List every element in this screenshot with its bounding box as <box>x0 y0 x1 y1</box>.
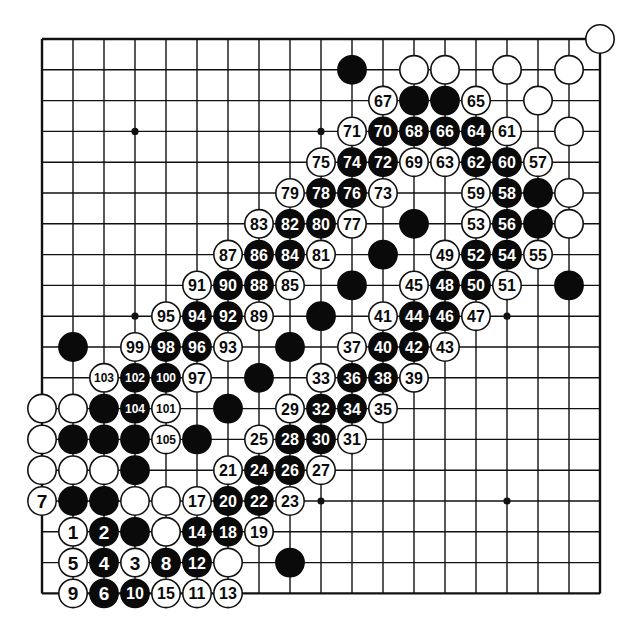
move-number: 10 <box>126 585 144 602</box>
white-stone <box>555 56 583 84</box>
move-number: 72 <box>374 154 392 171</box>
move-number: 80 <box>312 216 330 233</box>
white-stone-13: 13 <box>214 579 242 607</box>
black-stone-84: 84 <box>276 240 304 268</box>
white-stone-77: 77 <box>338 210 366 238</box>
move-number: 26 <box>281 462 299 479</box>
move-number: 32 <box>312 401 330 418</box>
black-stone-icon <box>400 86 428 114</box>
move-number: 49 <box>436 247 454 264</box>
white-stone-1: 1 <box>59 518 87 546</box>
white-stone-icon <box>59 394 87 422</box>
white-stone-9: 9 <box>59 579 87 607</box>
move-number: 35 <box>374 401 392 418</box>
star-point-icon <box>317 497 324 504</box>
black-stone-86: 86 <box>245 240 273 268</box>
white-stone <box>152 518 180 546</box>
move-number: 89 <box>250 308 268 325</box>
white-stone-icon <box>555 56 583 84</box>
move-number: 20 <box>219 493 237 510</box>
white-stone-75: 75 <box>307 148 335 176</box>
black-stone-icon <box>59 487 87 515</box>
black-stone-icon <box>369 240 397 268</box>
black-stone-102: 102 <box>121 364 149 392</box>
white-stone-105: 105 <box>152 425 180 453</box>
black-stone-36: 36 <box>338 364 366 392</box>
black-stone-82: 82 <box>276 210 304 238</box>
white-stone-31: 31 <box>338 425 366 453</box>
black-stone-34: 34 <box>338 394 366 422</box>
white-stone-37: 37 <box>338 333 366 361</box>
move-number: 100 <box>156 371 176 385</box>
black-stone-icon <box>276 333 304 361</box>
white-stone-29: 29 <box>276 394 304 422</box>
white-stone-49: 49 <box>431 240 459 268</box>
move-number: 29 <box>281 401 299 418</box>
star-point-icon <box>131 128 138 135</box>
black-stone-icon <box>307 302 335 330</box>
black-stone <box>307 302 335 330</box>
white-stone-icon <box>121 487 149 515</box>
black-stone <box>90 487 118 515</box>
black-stone <box>90 394 118 422</box>
black-stone-60: 60 <box>493 148 521 176</box>
move-number: 77 <box>343 216 361 233</box>
black-stone-icon <box>245 364 273 392</box>
white-stone-39: 39 <box>400 364 428 392</box>
black-stone <box>338 56 366 84</box>
black-stone-42: 42 <box>400 333 428 361</box>
black-stone-92: 92 <box>214 302 242 330</box>
black-stone-30: 30 <box>307 425 335 453</box>
black-stone-icon <box>214 394 242 422</box>
white-stone-3: 3 <box>121 548 149 576</box>
move-number: 73 <box>374 185 392 202</box>
move-number: 52 <box>467 247 485 264</box>
move-number: 5 <box>68 553 79 574</box>
white-stone-79: 79 <box>276 179 304 207</box>
black-stone <box>214 394 242 422</box>
black-stone-76: 76 <box>338 179 366 207</box>
white-stone <box>493 56 521 84</box>
white-stone-73: 73 <box>369 179 397 207</box>
move-number: 91 <box>188 277 206 294</box>
white-stone-icon <box>28 394 56 422</box>
black-stone-icon <box>555 271 583 299</box>
move-number: 11 <box>189 585 206 602</box>
black-stone-96: 96 <box>183 333 211 361</box>
white-stone-icon <box>400 56 428 84</box>
move-number: 66 <box>436 123 454 140</box>
move-number: 12 <box>188 555 206 572</box>
white-stone-89: 89 <box>245 302 273 330</box>
move-number: 62 <box>467 154 485 171</box>
black-stone-56: 56 <box>493 210 521 238</box>
black-stone <box>59 425 87 453</box>
white-stone-103: 103 <box>90 364 118 392</box>
white-stone-icon <box>28 425 56 453</box>
white-stone-17: 17 <box>183 487 211 515</box>
white-stone-45: 45 <box>400 271 428 299</box>
white-stone-35: 35 <box>369 394 397 422</box>
move-number: 2 <box>99 522 110 543</box>
black-stone <box>121 456 149 484</box>
go-board-diagram: 6765717068666461757472696362605779787673… <box>0 0 629 632</box>
move-number: 101 <box>156 402 176 416</box>
white-stone-87: 87 <box>214 240 242 268</box>
move-number: 8 <box>161 553 172 574</box>
move-number: 6 <box>99 583 110 604</box>
move-number: 68 <box>405 123 423 140</box>
white-stone-23: 23 <box>276 487 304 515</box>
move-number: 30 <box>312 431 330 448</box>
white-stone-43: 43 <box>431 333 459 361</box>
white-stone <box>28 456 56 484</box>
black-stone <box>431 86 459 114</box>
white-stone <box>59 394 87 422</box>
move-number: 54 <box>498 247 516 264</box>
move-number: 33 <box>312 370 330 387</box>
black-stone-38: 38 <box>369 364 397 392</box>
white-stone-101: 101 <box>152 394 180 422</box>
move-number: 95 <box>157 308 175 325</box>
black-stone-icon <box>183 425 211 453</box>
black-stone-icon <box>90 394 118 422</box>
move-number: 90 <box>219 277 237 294</box>
white-stone-63: 63 <box>431 148 459 176</box>
